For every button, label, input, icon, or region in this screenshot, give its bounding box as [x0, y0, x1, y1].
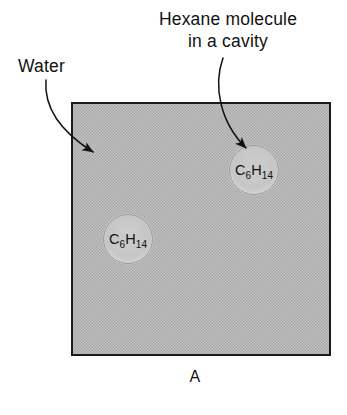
formula-hydrogen-symbol: H	[125, 231, 136, 247]
formula-hydrogen-symbol: H	[251, 162, 262, 178]
formula-carbon-symbol: C	[109, 231, 120, 247]
diagram-canvas: C6H14 C6H14 Water Hexane molecule in a c…	[0, 0, 347, 415]
formula-hydrogen-count: 14	[262, 170, 274, 181]
formula-carbon-symbol: C	[235, 162, 246, 178]
hexane-label-line-2: in a cavity	[188, 31, 268, 51]
hexane-label-line-1: Hexane molecule	[159, 9, 297, 29]
hexane-cavity-upper-right: C6H14	[229, 145, 280, 196]
water-label: Water	[18, 56, 65, 76]
panel-letter: A	[190, 368, 201, 385]
figure-panel-a: C6H14 C6H14 Water Hexane molecule in a c…	[0, 0, 347, 415]
hexane-cavity-lower-left: C6H14	[103, 214, 154, 265]
formula-hydrogen-count: 14	[136, 239, 148, 250]
